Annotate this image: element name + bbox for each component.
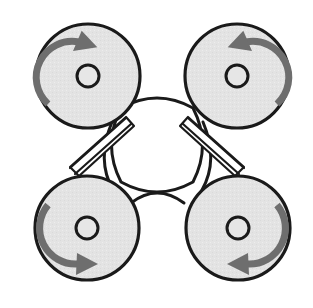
frame-arm-bottom-bridge: [131, 193, 184, 203]
rotor-hub: [76, 217, 98, 239]
rotor-hub: [77, 65, 99, 87]
rotor-rear-right: [186, 176, 290, 280]
rotor-hub: [227, 217, 249, 239]
rotor-rear-left: [35, 176, 139, 280]
rotor-front-right: [185, 24, 289, 128]
quadrotor-svg-canvas: [0, 0, 313, 308]
rotor-hub: [226, 65, 248, 87]
rotor-front-left: [36, 24, 140, 128]
quadrotor-diagram: [0, 0, 313, 308]
